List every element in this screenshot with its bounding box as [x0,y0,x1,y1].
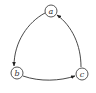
node-a-label: a [49,7,54,16]
edge-c-to-a [57,15,81,67]
node-b: b [11,67,23,79]
node-a: a [45,5,57,17]
edge-b-to-c [23,76,75,80]
edge-a-to-b [14,13,45,66]
node-b-label: b [14,69,19,78]
node-c-label: c [80,70,85,79]
graph-canvas: a b c [0,0,96,93]
node-c: c [76,68,88,80]
